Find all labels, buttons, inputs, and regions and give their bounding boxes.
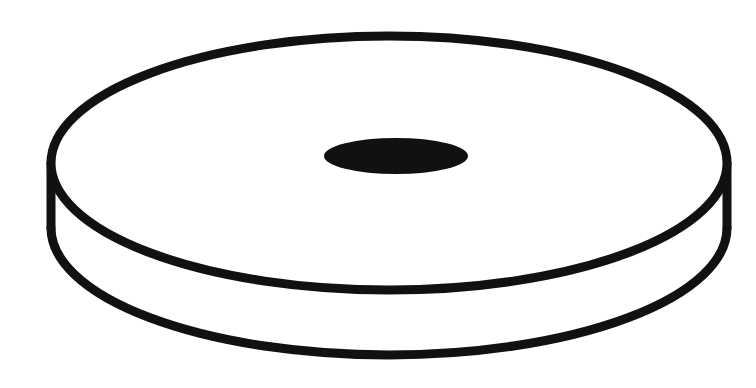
disc-diagram	[0, 0, 756, 388]
center-hole	[324, 138, 468, 174]
